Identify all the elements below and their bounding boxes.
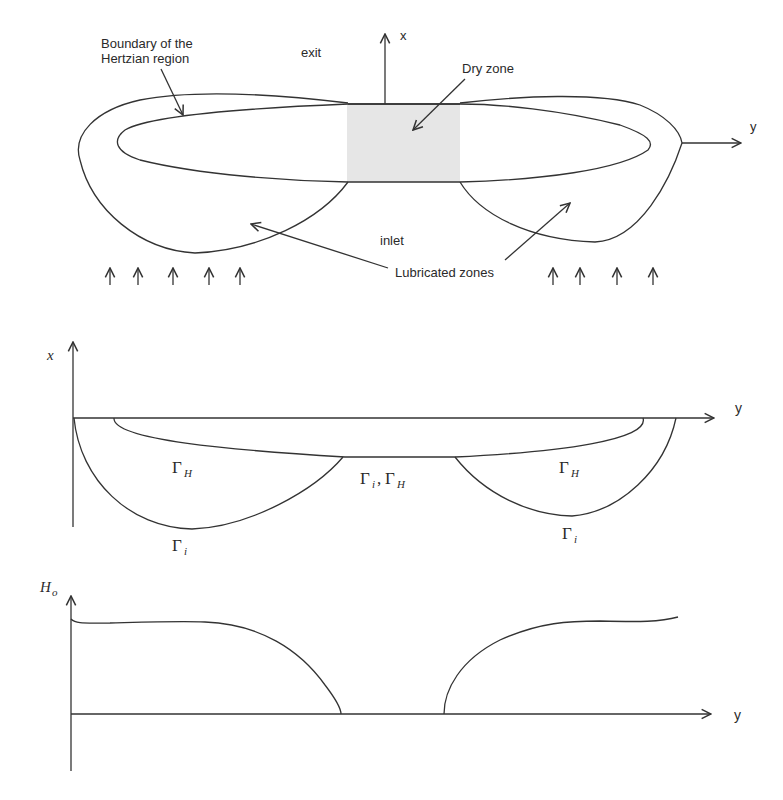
svg-text:i: i — [184, 545, 187, 557]
svg-text:H: H — [39, 579, 52, 595]
svg-text:,: , — [377, 469, 381, 488]
gamma-i-gamma-h-label: Γ i , Γ H — [360, 469, 406, 490]
gamma-h-right-label: Γ H — [559, 458, 580, 479]
svg-text:i: i — [372, 478, 375, 490]
mid-y-axis-label: y — [735, 400, 742, 416]
dry-zone-label: Dry zone — [462, 61, 514, 76]
middle-panel-boundaries: x y Γ H Γ i , Γ H Γ H Γ i Γ i — [46, 342, 742, 557]
svg-text:H: H — [183, 467, 193, 479]
svg-text:i: i — [574, 533, 577, 545]
dry-zone-shade — [347, 104, 460, 182]
svg-text:Γ: Γ — [172, 458, 182, 477]
svg-text:Γ: Γ — [360, 469, 370, 488]
right-lubricated-boundary — [460, 96, 682, 242]
svg-text:H: H — [396, 478, 406, 490]
svg-text:o: o — [52, 586, 58, 598]
exit-label: exit — [301, 45, 322, 60]
hertzian-boundary-pointer — [161, 69, 183, 115]
gamma-h-curve — [114, 418, 643, 457]
mid-x-axis-label: x — [46, 347, 54, 363]
svg-text:Γ: Γ — [559, 458, 569, 477]
hertzian-boundary-label-line2: Hertzian region — [101, 51, 189, 66]
top-panel-contact-region: x y Boundary of the Hertzian region exit… — [78, 28, 757, 285]
top-x-axis-label: x — [400, 28, 407, 43]
film-thickness-left-curve — [71, 619, 341, 714]
lubricated-zones-label: Lubricated zones — [395, 265, 495, 280]
gamma-i-right-label: Γ i — [562, 524, 577, 545]
inflow-arrows-right — [553, 268, 653, 285]
gamma-i-left-label: Γ i — [172, 536, 187, 557]
lubricated-pointer-right — [505, 203, 570, 260]
film-thickness-right-curve — [444, 617, 678, 714]
svg-text:Γ: Γ — [385, 469, 395, 488]
gamma-h-left-label: Γ H — [172, 458, 193, 479]
hertzian-boundary-label-line1: Boundary of the — [101, 36, 193, 51]
bottom-h-axis-label: H o — [39, 579, 58, 598]
svg-text:Γ: Γ — [562, 524, 572, 543]
lubrication-diagram: x y Boundary of the Hertzian region exit… — [0, 0, 783, 800]
gamma-i-left-curve — [74, 418, 343, 529]
bottom-panel-film-thickness: H o y — [39, 579, 741, 771]
inflow-arrows-left — [110, 268, 240, 285]
svg-text:H: H — [570, 467, 580, 479]
top-y-axis-label: y — [750, 119, 757, 134]
inlet-label: inlet — [380, 233, 404, 248]
svg-text:Γ: Γ — [172, 536, 182, 555]
lubricated-pointer-left — [251, 224, 388, 268]
bottom-y-axis-label: y — [734, 707, 741, 723]
